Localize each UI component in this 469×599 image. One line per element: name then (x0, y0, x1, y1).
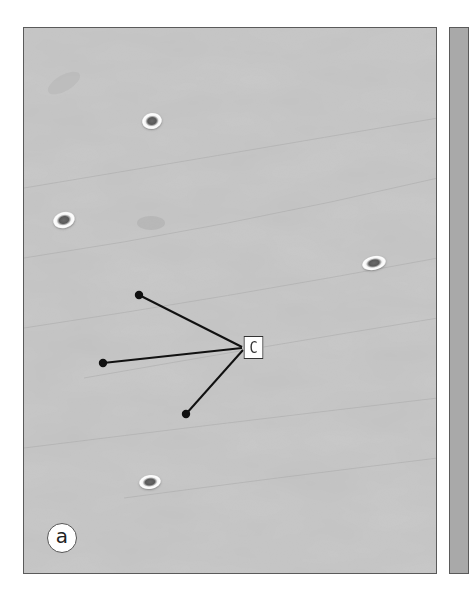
micrograph-panel-a (23, 27, 437, 574)
micrograph-panel-b-edge (449, 27, 469, 574)
panel-label-a: a (47, 523, 77, 553)
annotation-label-c: C (244, 336, 264, 359)
tissue-texture (24, 28, 437, 574)
